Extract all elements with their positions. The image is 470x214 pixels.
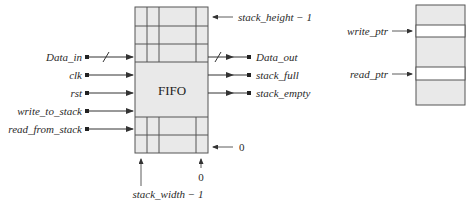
output-stack-empty: stack_empty xyxy=(208,87,310,99)
port-square-icon xyxy=(85,109,89,113)
input-clk: clk xyxy=(69,69,133,81)
fifo-title: FIFO xyxy=(158,83,186,98)
input-data-in: Data_in xyxy=(45,51,133,63)
port-square-icon xyxy=(85,55,89,59)
input-label: write_to_stack xyxy=(17,105,83,117)
fifo-diagram: FIFO Data_in clk rst write_to_stack read… xyxy=(0,0,470,214)
write-ptr-label: write_ptr xyxy=(347,25,389,37)
memory-body xyxy=(416,5,465,105)
port-square-icon xyxy=(85,91,89,95)
port-square-icon xyxy=(85,127,89,131)
input-rst: rst xyxy=(70,87,133,99)
output-label: stack_full xyxy=(256,69,299,81)
memory-slot-write xyxy=(416,25,465,37)
port-square-icon xyxy=(247,91,251,95)
fifo-outputs: Data_out stack_full stack_empty xyxy=(208,51,310,99)
annotation-right-col: 0 xyxy=(198,171,204,183)
fifo-body xyxy=(135,7,208,153)
input-label: rst xyxy=(70,87,83,99)
input-label: read_from_stack xyxy=(8,123,83,135)
output-label: Data_out xyxy=(255,51,299,63)
port-square-icon xyxy=(247,55,251,59)
annotation-stack-height: stack_height − 1 xyxy=(238,11,312,23)
memory-block: write_ptr read_ptr xyxy=(347,5,465,105)
output-label: stack_empty xyxy=(256,87,310,99)
memory-slot-read xyxy=(416,67,465,80)
output-data-out: Data_out xyxy=(208,51,299,63)
fifo-block: FIFO xyxy=(135,7,208,153)
annotation-bottom-row: 0 xyxy=(239,141,245,153)
port-square-icon xyxy=(85,73,89,77)
output-stack-full: stack_full xyxy=(208,69,299,81)
input-label: Data_in xyxy=(45,51,83,63)
fifo-inputs: Data_in clk rst write_to_stack read_from… xyxy=(8,51,133,135)
read-ptr-label: read_ptr xyxy=(350,68,389,80)
input-label: clk xyxy=(69,69,83,81)
annotation-stack-width: stack_width − 1 xyxy=(133,188,204,200)
port-square-icon xyxy=(247,73,251,77)
input-read-from-stack: read_from_stack xyxy=(8,123,133,135)
input-write-to-stack: write_to_stack xyxy=(17,105,133,117)
